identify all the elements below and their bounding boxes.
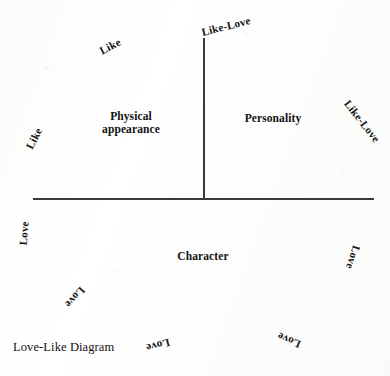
diagram-caption: Love-Like Diagram xyxy=(13,340,114,354)
region-label-line-1: Physical xyxy=(110,110,152,122)
axis-label-love-right: Love xyxy=(343,244,362,271)
axis-label-love-lower-left: Love xyxy=(62,284,87,310)
region-label-character: Character xyxy=(163,250,243,263)
axis-label-like-love-right: Like-Love xyxy=(342,98,383,145)
region-label-line-2: appearance xyxy=(102,123,160,135)
paper-texture xyxy=(0,0,390,376)
axis-label-love-bottom-right: Love xyxy=(276,330,303,351)
axis-label-like-left: Like xyxy=(23,126,44,152)
axis-label-like-love-top: Like-Love xyxy=(200,14,252,38)
axis-label-love-bottom-center: Love xyxy=(145,336,171,354)
vertical-axis xyxy=(203,38,205,199)
axis-label-love-left: Love xyxy=(17,221,31,246)
region-label-personality: Personality xyxy=(231,112,315,125)
love-like-diagram: Physical appearance Personality Characte… xyxy=(0,0,390,376)
axis-label-like-upper-left: Like xyxy=(97,36,123,57)
region-label-physical-appearance: Physical appearance xyxy=(93,110,169,136)
